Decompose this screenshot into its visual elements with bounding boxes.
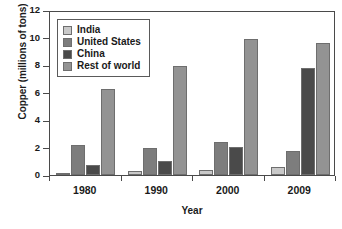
bar-india-2009 [271, 167, 285, 175]
y-tick-label: 12 [18, 4, 40, 15]
bar-india-1990 [128, 171, 142, 175]
bar-rest-of-world-2009 [316, 43, 330, 175]
legend-label: India [77, 24, 100, 36]
y-tick-label: 8 [18, 59, 40, 70]
x-tick-mark [121, 176, 122, 181]
x-tick-mark [49, 176, 50, 181]
x-tick-mark [264, 176, 265, 181]
x-axis-title: Year [49, 205, 335, 216]
x-tick-label-1980: 1980 [60, 184, 110, 196]
bar-united-states-2009 [286, 151, 300, 175]
legend-swatch-icon [63, 26, 72, 35]
bar-india-2000 [199, 170, 213, 175]
bar-rest-of-world-1980 [101, 89, 115, 175]
bar-china-2000 [229, 147, 243, 175]
legend-item-china: China [63, 48, 141, 60]
bar-united-states-2000 [214, 142, 228, 175]
legend-label: Rest of world [77, 60, 140, 72]
legend-swatch-icon [63, 50, 72, 59]
bar-united-states-1990 [143, 148, 157, 175]
legend-rows: IndiaUnited StatesChinaRest of world [63, 24, 141, 72]
bar-china-1980 [86, 165, 100, 175]
bar-rest-of-world-1990 [173, 66, 187, 175]
y-tick-label: 10 [18, 32, 40, 43]
legend-item-india: India [63, 24, 141, 36]
legend-label: United States [77, 36, 141, 48]
bar-india-1980 [56, 173, 70, 175]
x-tick-label-2000: 2000 [203, 184, 253, 196]
bar-china-2009 [301, 68, 315, 175]
x-tick-mark [192, 176, 193, 181]
legend-item-rest-of-world: Rest of world [63, 60, 141, 72]
bar-rest-of-world-2000 [244, 39, 258, 175]
copper-production-bar-chart: Copper (millions of tons) 024681012 1980… [0, 0, 342, 229]
legend-label: China [77, 48, 105, 60]
y-tick-label: 2 [18, 142, 40, 153]
x-tick-label-2009: 2009 [274, 184, 324, 196]
bar-china-1990 [158, 161, 172, 175]
y-tick-label: 6 [18, 87, 40, 98]
bar-united-states-1980 [71, 145, 85, 175]
legend: IndiaUnited StatesChinaRest of world [57, 19, 150, 77]
x-tick-label-1990: 1990 [131, 184, 181, 196]
y-tick-label: 0 [18, 169, 40, 180]
legend-swatch-icon [63, 62, 72, 71]
x-tick-mark [335, 176, 336, 181]
y-tick-label: 4 [18, 114, 40, 125]
legend-swatch-icon [63, 38, 72, 47]
legend-item-united-states: United States [63, 36, 141, 48]
